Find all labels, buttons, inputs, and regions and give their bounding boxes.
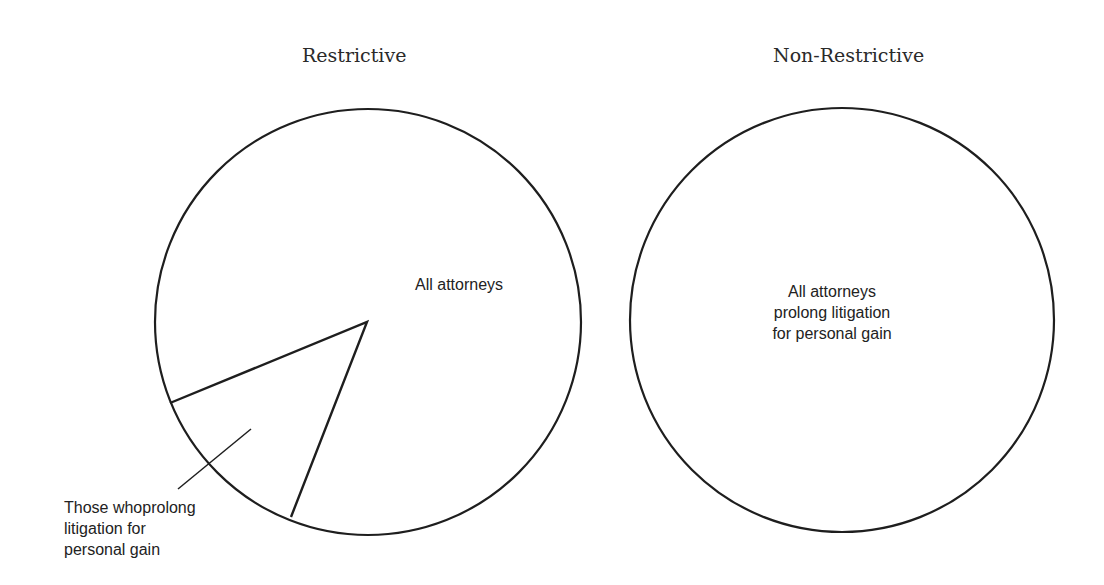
- non-restrictive-whole-label: All attorneys prolong litigation for per…: [742, 281, 922, 344]
- subset-label-line-3: personal gain: [64, 539, 196, 560]
- restrictive-whole-label: All attorneys: [415, 274, 503, 295]
- whole-label-line-3: for personal gain: [742, 323, 922, 344]
- restrictive-subset-label: Those whoprolong litigation for personal…: [64, 497, 196, 560]
- restrictive-title: Restrictive: [302, 44, 406, 66]
- whole-label-line-2: prolong litigation: [742, 302, 922, 323]
- restrictive-subset-wedge: [170, 322, 367, 517]
- subset-label-line-1: Those whoprolong: [64, 497, 196, 518]
- subset-label-line-2: litigation for: [64, 518, 196, 539]
- whole-label-line-1: All attorneys: [742, 281, 922, 302]
- non-restrictive-title: Non-Restrictive: [773, 44, 924, 66]
